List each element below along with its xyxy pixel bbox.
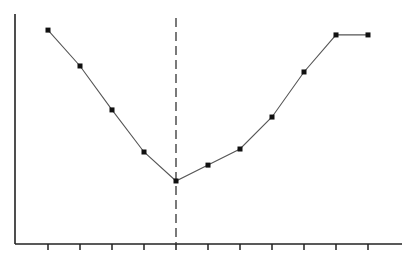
data-point-marker bbox=[238, 147, 243, 152]
data-point-marker bbox=[334, 32, 339, 37]
data-point-marker bbox=[174, 178, 179, 183]
chart-canvas bbox=[0, 0, 412, 261]
data-point-marker bbox=[302, 69, 307, 74]
data-point-marker bbox=[270, 115, 275, 120]
data-point-marker bbox=[366, 32, 371, 37]
data-point-marker bbox=[46, 28, 51, 33]
axes bbox=[15, 14, 402, 250]
data-point-marker bbox=[142, 150, 147, 155]
line-chart bbox=[0, 0, 412, 261]
data-point-marker bbox=[206, 163, 211, 168]
x-ticks bbox=[48, 244, 368, 250]
data-point-marker bbox=[110, 107, 115, 112]
data-point-marker bbox=[78, 63, 83, 68]
series-line bbox=[48, 30, 368, 181]
